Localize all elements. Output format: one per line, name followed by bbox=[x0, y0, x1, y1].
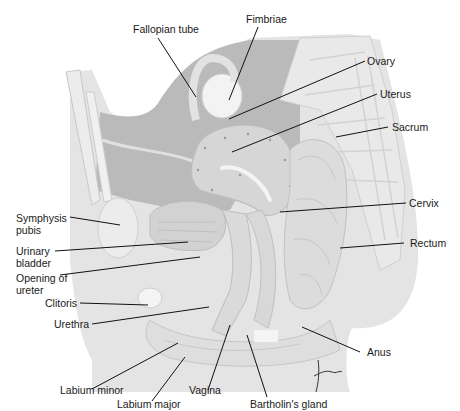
label-fimbriae: Fimbriae bbox=[246, 13, 287, 25]
anatomy-diagram: Fallopian tube Fimbriae Ovary Uterus Sac… bbox=[0, 0, 460, 411]
label-fallopian-tube: Fallopian tube bbox=[133, 23, 199, 35]
label-clitoris: Clitoris bbox=[45, 297, 77, 309]
label-cervix: Cervix bbox=[409, 197, 439, 209]
label-vagina: Vagina bbox=[189, 384, 221, 396]
label-ovary: Ovary bbox=[367, 55, 395, 67]
label-urethra: Urethra bbox=[54, 318, 89, 330]
label-labium-major: Labium major bbox=[117, 398, 181, 410]
label-uterus: Uterus bbox=[380, 88, 411, 100]
urinary-bladder bbox=[150, 201, 226, 250]
label-opening-of-ureter: Opening of ureter bbox=[16, 272, 72, 296]
label-sacrum: Sacrum bbox=[392, 121, 428, 133]
label-rectum: Rectum bbox=[410, 237, 446, 249]
label-symphysis-pubis: Symphysis pubis bbox=[16, 212, 76, 236]
label-bartholins-gland: Bartholin's gland bbox=[250, 398, 327, 410]
label-anus: Anus bbox=[367, 346, 391, 358]
symphysis-pubis bbox=[98, 198, 138, 258]
label-urinary-bladder: Urinary bladder bbox=[16, 245, 76, 269]
label-labium-minor: Labium minor bbox=[60, 384, 124, 396]
